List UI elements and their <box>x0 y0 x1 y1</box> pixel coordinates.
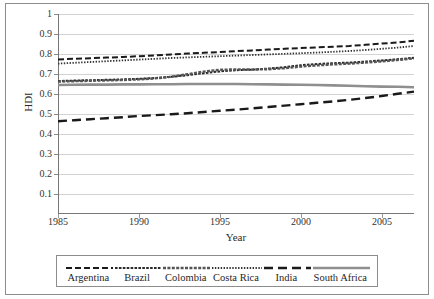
x-tick-label: 1995 <box>200 217 240 227</box>
y-tick-label: 0.9 <box>0 29 52 39</box>
y-tick-label: 1 <box>0 9 52 19</box>
legend-swatch-icon <box>113 265 162 271</box>
legend-items: ArgentinaBrazilColombiaCosta RicaIndiaSo… <box>57 256 377 286</box>
x-tick-label: 2005 <box>362 217 402 227</box>
legend-label: India <box>272 272 300 284</box>
x-tick-label: 1985 <box>38 217 78 227</box>
legend-item-india[interactable]: India <box>262 265 311 284</box>
x-tick-label: 2000 <box>281 217 321 227</box>
series-line-south-africa <box>58 84 414 87</box>
legend-swatch-icon <box>161 265 210 271</box>
legend-item-costa-rica[interactable]: Costa Rica <box>210 265 262 284</box>
legend-label: Costa Rica <box>210 272 262 284</box>
series-line-costa-rica <box>58 46 414 64</box>
series-lines <box>58 14 414 214</box>
legend-item-brazil[interactable]: Brazil <box>113 265 162 284</box>
y-axis-title: HDI <box>22 72 34 132</box>
y-tick-label: 0.1 <box>0 189 52 199</box>
legend-swatch-icon <box>262 265 311 271</box>
legend-label: Argentina <box>64 272 112 284</box>
plot-area <box>58 14 414 214</box>
x-axis-title: Year <box>58 231 414 243</box>
y-tick-label: 0.3 <box>0 149 52 159</box>
legend-item-south-africa[interactable]: South Africa <box>311 265 370 284</box>
legend-label: South Africa <box>311 272 370 284</box>
legend-item-argentina[interactable]: Argentina <box>64 265 113 284</box>
legend-label: Colombia <box>162 272 209 284</box>
legend-label: Brazil <box>121 272 153 284</box>
legend-box: ArgentinaBrazilColombiaCosta RicaIndiaSo… <box>56 255 378 287</box>
series-line-colombia <box>58 58 414 81</box>
legend-swatch-icon <box>210 265 262 271</box>
series-line-india <box>58 92 414 122</box>
y-tick-label: 0.2 <box>0 169 52 179</box>
figure-container: 0.10.20.30.40.50.60.70.80.91 19851990199… <box>0 0 434 299</box>
legend-swatch-icon <box>64 265 113 271</box>
x-tick-label: 1990 <box>119 217 159 227</box>
y-tick-label: 0.8 <box>0 49 52 59</box>
legend-swatch-icon <box>311 265 370 271</box>
legend-item-colombia[interactable]: Colombia <box>161 265 210 284</box>
